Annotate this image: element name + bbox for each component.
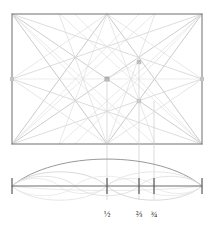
diagram-canvas: ½ ⅔ ¾	[0, 0, 216, 239]
left-edge-node	[10, 77, 14, 81]
geometric-diagram-figure: ½ ⅔ ¾	[0, 0, 216, 239]
label-three-quarters: ¾	[151, 209, 158, 219]
string-axis-group	[12, 178, 202, 194]
droplines-group	[107, 62, 154, 200]
fraction-labels-group: ½ ⅔ ¾	[104, 209, 158, 219]
label-one-half: ½	[104, 209, 111, 219]
label-two-thirds: ⅔	[136, 209, 143, 219]
right-edge-node	[200, 77, 204, 81]
